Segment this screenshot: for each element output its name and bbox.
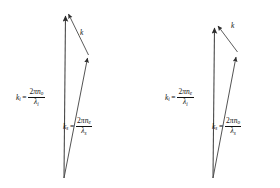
ki-equals-left: = xyxy=(22,94,26,102)
vector-arrows-right xyxy=(140,0,280,188)
ki-vector-arrow-right xyxy=(213,28,215,178)
ki-subscript-left: i xyxy=(19,96,20,102)
ki-equation-left: ki = 2πno λi xyxy=(16,88,45,107)
ks-fraction-right: 2πno λs xyxy=(225,117,242,136)
ki-vector-arrow-left xyxy=(64,16,66,178)
ki-equation-right: ki = 2πne λi xyxy=(165,88,194,107)
ki-denominator-right: λi xyxy=(181,98,189,107)
ks-subscript-left: s xyxy=(66,125,68,131)
vector-diagram-right: k ki = 2πne λi ks = 2πno λs xyxy=(140,0,280,188)
ks-denominator-left: λs xyxy=(80,127,88,136)
vector-diagram-left: k ki = 2πno λi ks = 2πne λs xyxy=(0,0,140,188)
figure-root: k ki = 2πno λi ks = 2πne λs xyxy=(0,0,280,188)
k-label-left: k xyxy=(80,28,83,37)
k-vector-arrow-left xyxy=(69,14,89,55)
ks-subscript-right: s xyxy=(215,125,217,131)
ks-equals-left: = xyxy=(70,123,74,131)
ks-fraction-left: 2πne λs xyxy=(76,117,93,136)
ks-equation-right: ks = 2πno λs xyxy=(212,117,241,136)
ki-denominator-left: λi xyxy=(33,98,41,107)
k-label-right: k xyxy=(231,21,234,30)
ks-denominator-right: λs xyxy=(229,127,237,136)
ki-fraction-left: 2πno λi xyxy=(28,88,45,107)
k-vector-arrow-right xyxy=(218,26,238,52)
ki-subscript-right: i xyxy=(168,96,169,102)
ks-equation-left: ks = 2πne λs xyxy=(63,117,92,136)
ks-equals-right: = xyxy=(219,123,223,131)
ki-equals-right: = xyxy=(171,94,175,102)
ki-fraction-right: 2πne λi xyxy=(177,88,194,107)
